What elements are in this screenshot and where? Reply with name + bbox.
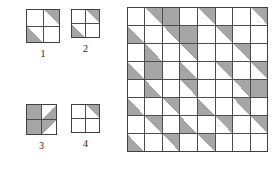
figure-root: 1234 [0, 0, 273, 170]
tile-1-swatch [26, 9, 60, 43]
tile-2: 2 [71, 9, 100, 38]
tile-4-label: 4 [71, 138, 100, 150]
tile-3-label: 3 [26, 140, 57, 152]
tile-4-swatch [71, 104, 100, 133]
tile-1-label: 1 [26, 48, 60, 60]
tile-2-swatch [71, 9, 100, 38]
pattern-grid [127, 7, 268, 152]
tile-4: 4 [71, 104, 100, 133]
tile-3-swatch [26, 104, 57, 135]
tile-3: 3 [26, 104, 57, 135]
tile-1: 1 [26, 9, 60, 43]
tile-2-label: 2 [71, 43, 100, 55]
